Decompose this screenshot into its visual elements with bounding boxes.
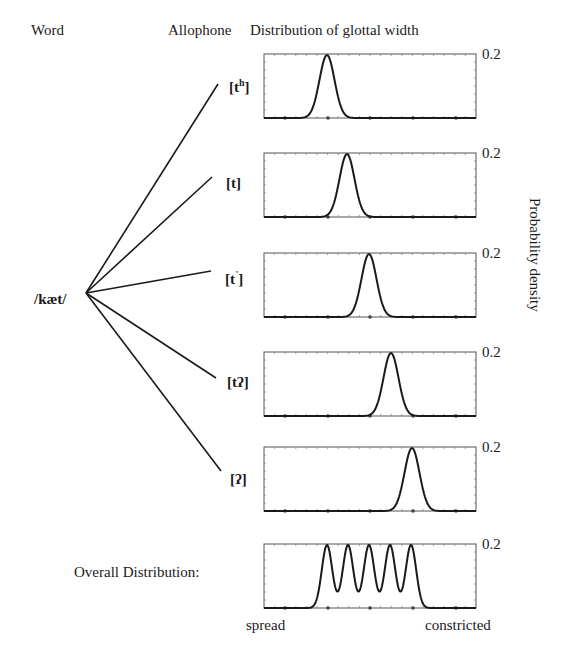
plot-frame — [264, 447, 476, 511]
density-curve — [264, 448, 476, 511]
allophone-label: [ʔ] — [230, 471, 247, 487]
distribution-plots: 0.20.20.20.20.20.2 — [264, 46, 501, 610]
allophone-plot: 0.2 — [264, 439, 501, 513]
allophone-label: [t˺] — [225, 269, 243, 287]
allophone-plot: 0.2 — [264, 344, 501, 418]
y-max-label: 0.2 — [482, 439, 501, 455]
plot-frame — [264, 352, 476, 416]
overall-plot: 0.2 — [264, 536, 501, 610]
density-curve — [264, 55, 476, 118]
allophone-label: [th] — [229, 77, 250, 95]
x-axis-constricted-label: constricted — [425, 617, 491, 633]
allophone-column-header: Allophone — [168, 22, 232, 38]
y-max-label: 0.2 — [482, 245, 501, 261]
plot-frame — [264, 153, 476, 217]
axis-dot — [326, 116, 330, 120]
y-max-label: 0.2 — [482, 536, 501, 552]
overall-density-curve — [264, 545, 476, 608]
plot-frame — [264, 54, 476, 118]
axis-dot — [368, 315, 372, 319]
allophone-label: [t] — [226, 175, 241, 191]
axis-dot — [411, 509, 415, 513]
density-curve — [264, 353, 476, 416]
y-max-label: 0.2 — [482, 46, 501, 62]
y-max-label: 0.2 — [482, 145, 501, 161]
allophone-plot: 0.2 — [264, 46, 501, 120]
x-axis-spread-label: spread — [246, 617, 286, 633]
branch-line — [86, 293, 216, 378]
allophone-distribution-figure: Word Allophone Distribution of glottal w… — [0, 0, 563, 651]
plot-frame — [264, 544, 476, 608]
plot-frame — [264, 253, 476, 317]
allophone-label: [tʔ] — [227, 374, 249, 390]
word-column-header: Word — [31, 22, 64, 38]
axis-dot — [368, 606, 372, 610]
branch-line — [86, 293, 221, 471]
density-curve — [264, 154, 476, 217]
axis-dot — [411, 606, 415, 610]
axis-dot — [326, 606, 330, 610]
branch-line — [86, 84, 218, 293]
allophone-plot: 0.2 — [264, 245, 501, 319]
y-max-label: 0.2 — [482, 344, 501, 360]
branch-lines: [th][t][t˺][tʔ][ʔ] — [86, 77, 250, 487]
branch-line — [86, 271, 211, 293]
distribution-column-header: Distribution of glottal width — [250, 22, 419, 38]
allophone-plot: 0.2 — [264, 145, 501, 219]
word-label: /kæt/ — [33, 291, 67, 307]
density-curve — [264, 254, 476, 317]
y-axis-label: Probability density — [527, 198, 543, 312]
overall-distribution-label: Overall Distribution: — [74, 564, 199, 580]
